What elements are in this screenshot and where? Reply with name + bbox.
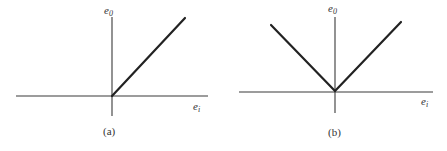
figure: e0 ei (a) e0 ei (b) — [0, 0, 447, 151]
panel-b-y-label: e0 — [328, 2, 337, 16]
panel-b: e0 ei (b) — [239, 2, 433, 139]
panel-b-caption: (b) — [328, 126, 341, 139]
panel-a-x-label: ei — [193, 100, 200, 114]
panel-a: e0 ei (a) — [16, 4, 208, 138]
panel-a-y-label: e0 — [104, 4, 113, 18]
panel-b-x-label: ei — [421, 95, 428, 109]
panel-b-transfer-curve — [271, 22, 401, 91]
panel-a-transfer-curve — [112, 18, 185, 96]
panel-a-caption: (a) — [103, 125, 116, 138]
